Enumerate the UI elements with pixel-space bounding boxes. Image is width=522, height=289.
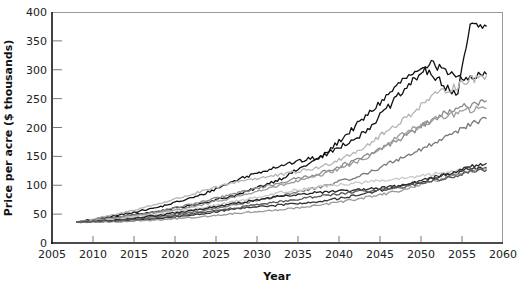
y-tick-label: 150 (26, 150, 47, 163)
y-axis-title: Price per acre ($ thousands) (2, 40, 15, 217)
y-tick-label: 350 (26, 35, 47, 48)
x-tick-label: 2055 (448, 248, 476, 261)
x-tick-label: 2035 (284, 248, 312, 261)
y-tick-label: 250 (26, 93, 47, 106)
y-tick-label: 200 (26, 122, 47, 135)
y-tick-label: 300 (26, 64, 47, 77)
x-tick-label: 2025 (202, 248, 230, 261)
x-tick-label: 2045 (366, 248, 394, 261)
x-tick-label: 2015 (120, 248, 148, 261)
y-tick-label: 50 (33, 208, 47, 221)
x-axis-title: Year (262, 270, 291, 283)
x-tick-label: 2060 (489, 248, 517, 261)
y-tick-label: 0 (40, 237, 47, 250)
x-tick-label: 2010 (79, 248, 107, 261)
line-chart: 2005201020152020202520302035204020452050… (0, 0, 522, 289)
y-tick-label: 400 (26, 6, 47, 19)
y-tick-label: 100 (26, 179, 47, 192)
x-tick-label: 2050 (407, 248, 435, 261)
plot-area (52, 12, 503, 243)
x-tick-label: 2040 (325, 248, 353, 261)
x-tick-label: 2020 (161, 248, 189, 261)
x-tick-label: 2030 (243, 248, 271, 261)
